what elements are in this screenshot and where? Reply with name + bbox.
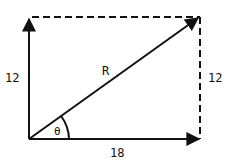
resultant-vector-arrow <box>29 18 198 139</box>
angle-arc <box>61 116 69 139</box>
vector-diagram: 12 12 18 R θ <box>0 0 229 168</box>
label-angle-theta: θ <box>54 125 61 138</box>
label-bottom-18: 18 <box>110 146 124 160</box>
label-resultant-R: R <box>102 64 110 78</box>
label-right-12: 12 <box>208 71 222 85</box>
label-left-12: 12 <box>5 71 19 85</box>
